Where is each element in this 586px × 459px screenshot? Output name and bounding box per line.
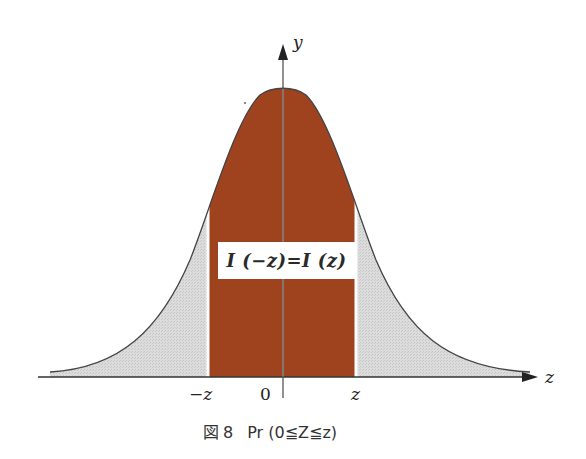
equation-label: I (−z)=I (z)	[218, 242, 355, 279]
tick-zero: 0	[260, 386, 271, 403]
x-axis-label: z	[545, 369, 554, 386]
tick-z: z	[351, 386, 360, 403]
speck	[244, 102, 246, 104]
y-axis-arrow-icon	[278, 44, 288, 60]
equation-text: I (−z)=I (z)	[226, 250, 346, 271]
figure-caption: 図8Pr (0≦Z≦z)	[203, 419, 337, 443]
normal-curve-plot	[0, 0, 586, 459]
caption-text: Pr (0≦Z≦z)	[247, 423, 337, 442]
central-region	[208, 60, 356, 377]
tick-minus-z: −z	[189, 386, 212, 403]
y-axis-label: y	[293, 34, 303, 51]
caption-number: 8	[223, 423, 233, 442]
caption-prefix: 図	[203, 423, 219, 442]
normal-distribution-figure: y z −z 0 z I (−z)=I (z) 図8Pr (0≦Z≦z)	[0, 0, 586, 459]
